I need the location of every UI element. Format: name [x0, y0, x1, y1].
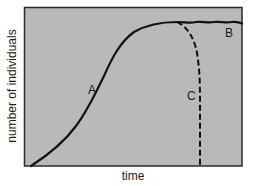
x-axis-label: time: [122, 169, 145, 183]
curve-label-b: B: [225, 26, 233, 40]
population-growth-chart: A B C time number of individuals: [0, 0, 257, 186]
curve-label-a: A: [88, 83, 96, 97]
y-axis-label: number of individuals: [5, 29, 19, 142]
curve-label-c: C: [187, 89, 196, 103]
